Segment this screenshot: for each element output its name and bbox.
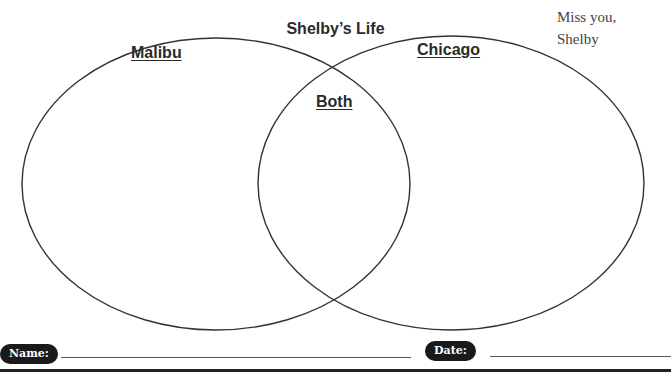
name-badge: Name: bbox=[0, 344, 58, 364]
bottom-divider bbox=[0, 369, 671, 372]
both-label: Both bbox=[316, 93, 352, 111]
chicago-label: Chicago bbox=[417, 41, 480, 59]
note-line-2: Shelby bbox=[557, 28, 616, 50]
name-field-line[interactable] bbox=[61, 357, 411, 358]
note-line-1: Miss you, bbox=[557, 6, 616, 28]
diagram-title: Shelby’s Life bbox=[258, 20, 413, 38]
chicago-circle bbox=[258, 36, 644, 330]
venn-diagram bbox=[0, 0, 671, 373]
date-field-line[interactable] bbox=[490, 356, 671, 357]
malibu-label: Malibu bbox=[131, 44, 182, 62]
malibu-circle bbox=[22, 38, 410, 330]
note-text: Miss you, Shelby bbox=[557, 6, 616, 50]
date-badge: Date: bbox=[425, 341, 476, 361]
